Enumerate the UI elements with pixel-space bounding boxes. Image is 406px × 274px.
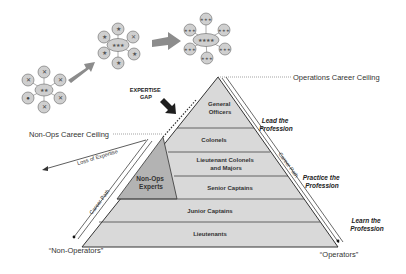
path-start-dot-icon [73, 236, 76, 239]
operations-career-ceiling-label: Operations Career Ceiling [293, 73, 380, 82]
svg-text:✕: ✕ [42, 69, 47, 75]
svg-text:✕: ✕ [26, 77, 31, 83]
level-senior-captains: Senior Captains [207, 185, 253, 191]
arrowhead-icon [42, 166, 48, 171]
org-cluster-2: ★★★ ★★✕ ★★★ [98, 23, 140, 69]
non-ops-career-ceiling-label: Non-Ops Career Ceiling [29, 130, 109, 139]
svg-text:★: ★ [102, 34, 107, 40]
svg-text:★★★: ★★★ [219, 48, 231, 52]
org-cluster-3: ★★★★ ★★★★★★★★★ ★★★★★★★★★ [184, 13, 231, 64]
career-path-left-label: Career Path [88, 188, 111, 215]
svg-text:★: ★ [132, 51, 137, 57]
career-pyramid-diagram: ★★ ✕✕✕ ●✕✕ ★★★ [0, 0, 406, 274]
svg-text:★★★: ★★★ [200, 18, 212, 22]
svg-text:★★★: ★★★ [184, 48, 196, 52]
expertise-gap-label: EXPERTISE GAP [130, 87, 162, 100]
svg-text:★: ★ [102, 50, 107, 56]
org-cluster-1: ★★ ✕✕✕ ●✕✕ [22, 66, 66, 113]
svg-text:★★★★: ★★★★ [198, 38, 215, 43]
svg-text:★★★: ★★★ [201, 57, 213, 61]
expertise-gap-arrow [160, 98, 176, 114]
svg-text:✕: ✕ [131, 34, 136, 40]
non-ops-experts-label: Non-Ops Experts [136, 175, 165, 191]
svg-text:★★: ★★ [40, 87, 49, 93]
level-lieutenants: Lieutenants [193, 231, 227, 237]
path-end-dot-icon [337, 240, 340, 243]
svg-text:★★★: ★★★ [218, 29, 230, 33]
progression-arrow-2 [152, 32, 181, 50]
level-colonels: Colonels [201, 137, 227, 143]
svg-text:✕: ✕ [58, 77, 63, 83]
svg-text:●: ● [26, 95, 30, 101]
svg-text:★: ★ [116, 60, 121, 66]
level-junior-captains: Junior Captains [187, 208, 233, 214]
svg-text:★★★: ★★★ [112, 42, 125, 48]
operators-label: “Operators” [320, 250, 359, 259]
loss-of-expertise-label: Loss of Expertise [76, 148, 118, 166]
learn-profession-label: Learn the Profession [350, 217, 384, 232]
svg-text:✕: ✕ [58, 95, 63, 101]
svg-text:✕: ✕ [42, 104, 47, 110]
practice-profession-label: Practice the Profession [303, 174, 342, 189]
non-operators-label: “Non-Operators” [49, 246, 104, 255]
svg-text:★: ★ [116, 26, 121, 32]
svg-text:★★★: ★★★ [184, 29, 196, 33]
lead-profession-label: Lead the Profession [259, 117, 293, 132]
progression-arrow-1 [68, 62, 95, 83]
